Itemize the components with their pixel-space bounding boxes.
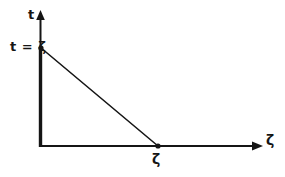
arrow-right-icon: [252, 141, 263, 150]
figure-canvas: t t = ζ ζ ζ: [0, 0, 285, 177]
point-marker-icon-bottom: [155, 143, 160, 148]
t-equals-zeta-line: [41, 48, 159, 147]
zeta-axis-label: ζ: [266, 133, 274, 147]
arrow-up-icon: [36, 10, 45, 20]
diagram-svg: [0, 0, 285, 177]
t-axis-label: t: [28, 8, 34, 21]
zeta-tick-label: ζ: [152, 152, 160, 166]
t-equals-zeta-label: t = ζ: [10, 40, 46, 53]
